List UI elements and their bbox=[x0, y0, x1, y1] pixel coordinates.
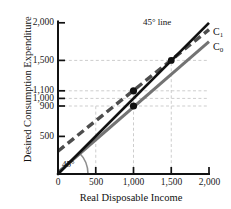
angle-45-annotation: 45° bbox=[62, 160, 75, 169]
angle-arc bbox=[79, 153, 88, 174]
x-tick-label-500: 500 bbox=[80, 178, 112, 188]
vertical-gridlines bbox=[96, 60, 172, 174]
data-point-1000-1100 bbox=[130, 87, 137, 94]
series-label-c0-subscript: 0 bbox=[220, 46, 224, 54]
x-tick-label-1000: 1,000 bbox=[115, 178, 152, 188]
series-label-c1: C1 bbox=[213, 27, 223, 37]
x-tick-label-0: 0 bbox=[44, 178, 72, 188]
x-axis-ticks bbox=[96, 167, 209, 174]
x-tick-label-1500: 1,500 bbox=[153, 178, 190, 188]
data-point-1000-900 bbox=[130, 102, 137, 109]
data-point-1500-1500 bbox=[168, 57, 175, 64]
x-tick-label-2000: 2,000 bbox=[191, 178, 228, 188]
consumption-function-chart: 2,000 1,500 1,100 1,000 900 500 0 500 1,… bbox=[0, 0, 231, 209]
series-label-c0-text: C bbox=[213, 41, 220, 52]
series-label-c1-text: C bbox=[213, 26, 220, 37]
series-label-c0: C0 bbox=[213, 42, 223, 52]
series-label-c1-subscript: 1 bbox=[220, 31, 224, 39]
x-axis-title: Real Disposable Income bbox=[46, 193, 216, 204]
y-axis-ticks bbox=[58, 23, 65, 137]
line-45-annotation: 45° line bbox=[143, 18, 171, 27]
y-axis-title: Desired Consumption Expenditure bbox=[23, 5, 34, 173]
